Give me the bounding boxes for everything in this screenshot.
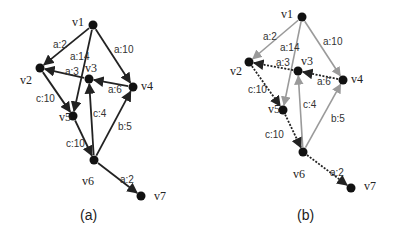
node-label: v6 — [293, 167, 305, 181]
node-v1 — [298, 13, 307, 22]
edge-label: a:2 — [263, 31, 277, 42]
edge-label: a:14 — [280, 42, 300, 53]
node-label: v1 — [72, 15, 84, 29]
node-label: v2 — [20, 73, 32, 87]
node-v6 — [90, 156, 99, 165]
node-label: v3 — [85, 61, 97, 75]
node-label: v5 — [59, 110, 71, 124]
caption-a: (a) — [80, 207, 97, 223]
node-label: v4 — [351, 72, 363, 86]
edge-label: b:5 — [118, 121, 132, 132]
node-v2 — [245, 58, 254, 67]
graph-diagram: a:2a:14a:10a:3a:6c:10c:4b:5c:10a:2v1v2v3… — [0, 0, 393, 231]
node-v2 — [36, 64, 45, 73]
edge-label: c:10 — [248, 84, 267, 95]
node-label: v1 — [281, 7, 293, 21]
edge-label: c:10 — [265, 129, 284, 140]
labels-layer: a:2a:14a:10a:3a:6c:10c:4b:5c:10a:2v1v2v3… — [20, 7, 376, 203]
node-v4 — [129, 83, 138, 92]
edge-label: a:10 — [323, 36, 343, 47]
node-label: v7 — [364, 179, 376, 193]
edge-label: c:10 — [36, 93, 55, 104]
edge-label: a:2 — [120, 174, 134, 185]
edge-v1-v4 — [96, 29, 131, 83]
edge-label: c:4 — [93, 108, 107, 119]
node-v4 — [339, 76, 348, 85]
edge-v5-v6 — [285, 115, 301, 148]
edge-label: c:4 — [303, 99, 317, 110]
edge-label: a:6 — [108, 84, 122, 95]
edge-label: a:2 — [53, 39, 67, 50]
caption-b: (b) — [297, 207, 314, 223]
edge-label: b:5 — [331, 113, 345, 124]
node-v7 — [137, 192, 146, 201]
node-label: v2 — [230, 64, 242, 78]
node-v3 — [85, 75, 94, 84]
edge-v6-v3 — [89, 84, 93, 155]
edge-label: a:6 — [317, 76, 331, 87]
node-label: v5 — [268, 102, 280, 116]
node-label: v6 — [82, 174, 94, 188]
edge-v6-v3 — [298, 76, 302, 147]
edge-label: a:3 — [276, 57, 290, 68]
node-v1 — [89, 21, 98, 30]
edge-v2-v5 — [43, 72, 70, 112]
node-label: v4 — [141, 79, 153, 93]
node-v7 — [347, 184, 356, 193]
edge-label: a:3 — [65, 66, 79, 77]
edge-label: a:10 — [114, 44, 134, 55]
edge-label: c:10 — [66, 138, 85, 149]
node-label: v3 — [301, 54, 313, 68]
node-label: v7 — [154, 189, 166, 203]
node-v6 — [299, 148, 308, 157]
edge-label: a:2 — [330, 167, 344, 178]
